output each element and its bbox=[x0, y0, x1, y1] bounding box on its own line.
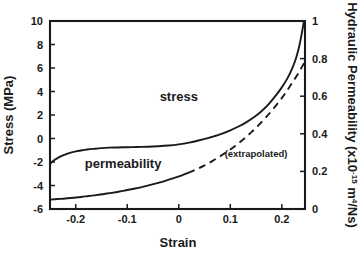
stress-permeability-chart: -0.2-0.100.10.2 -6-4-20246810 00.20.40.6… bbox=[0, 0, 362, 257]
x-tick-label: 0 bbox=[176, 213, 182, 225]
y-left-tick-label: 0 bbox=[37, 133, 43, 145]
y-left-tick-label: 8 bbox=[37, 39, 43, 51]
x-tick-label: 0.2 bbox=[274, 213, 289, 225]
x-tick-label: -0.2 bbox=[66, 213, 85, 225]
y-left-tick-label: -2 bbox=[33, 156, 43, 168]
y-axis-right-title: Hydraulic Permeability (x10-15 m4/Ns) bbox=[345, 2, 360, 228]
y-left-tick-label: -6 bbox=[33, 203, 43, 215]
y-left-tick-label: 10 bbox=[31, 15, 43, 27]
y-right-tick-label: 0.8 bbox=[312, 53, 327, 65]
y-right-tick-label: 0.4 bbox=[312, 128, 328, 140]
annotation-extrapolated: (extrapolated) bbox=[225, 148, 288, 159]
y-left-tick-label: 4 bbox=[37, 86, 44, 98]
y-left-tick-label: -4 bbox=[33, 180, 44, 192]
x-tick-label: 0.1 bbox=[223, 213, 238, 225]
figure-container: -0.2-0.100.10.2 -6-4-20246810 00.20.40.6… bbox=[0, 0, 362, 257]
x-axis-title: Strain bbox=[160, 235, 197, 250]
y-right-tick-label: 0.2 bbox=[312, 165, 327, 177]
x-tick-label: -0.1 bbox=[118, 213, 137, 225]
annotation-permeability: permeability bbox=[85, 156, 162, 171]
y-left-tick-label: 2 bbox=[37, 109, 43, 121]
y-right-tick-label: 0.6 bbox=[312, 90, 327, 102]
y-right-tick-label: 0 bbox=[312, 203, 318, 215]
y-axis-left-title: Stress (MPa) bbox=[1, 76, 16, 155]
y-right-tick-label: 1 bbox=[312, 15, 318, 27]
annotation-stress: stress bbox=[160, 89, 198, 104]
y-left-tick-label: 6 bbox=[37, 62, 43, 74]
